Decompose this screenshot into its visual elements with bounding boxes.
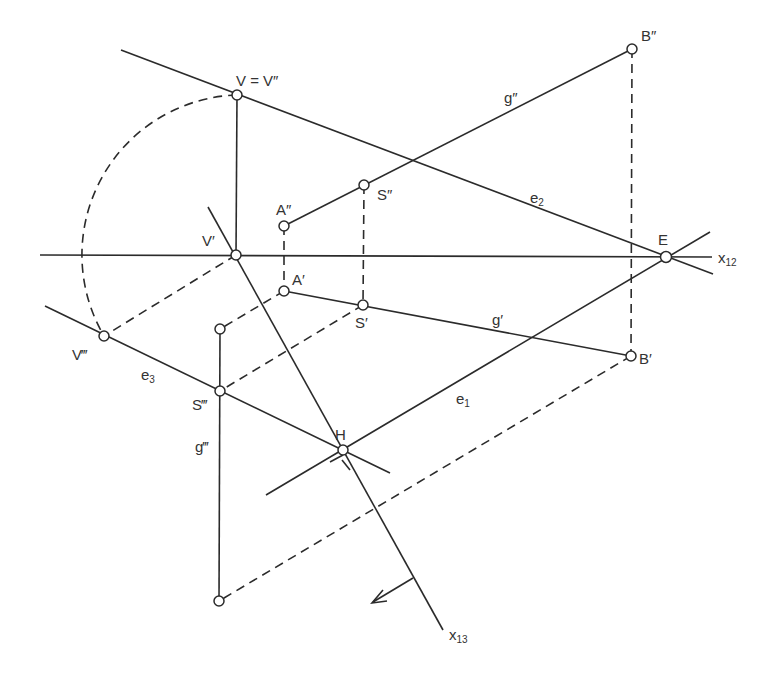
point-v [232, 90, 242, 100]
label-s1: S′ [355, 314, 368, 331]
point-b2 [627, 44, 637, 54]
point-s3 [215, 386, 225, 396]
point-s1 [358, 300, 368, 310]
line-g2 [284, 49, 632, 226]
point-h [338, 445, 348, 455]
label-e3: e3 [141, 366, 155, 385]
label-e1: e1 [456, 390, 470, 409]
point-b1 [626, 351, 636, 361]
line-g3 [219, 329, 220, 601]
dash-b2-b1 [631, 49, 632, 356]
label-v: V = V″ [236, 72, 279, 89]
rotation-arrow-head [372, 590, 387, 603]
dash-b1-b3 [219, 356, 631, 601]
label-a1: A′ [292, 271, 305, 288]
label-e: E [658, 231, 668, 248]
label-g2: g″ [504, 89, 518, 106]
line-g1 [284, 291, 631, 356]
point-e [661, 252, 672, 263]
label-v1: V′ [202, 232, 215, 249]
label-g1: g′ [492, 311, 503, 328]
label-h: H [335, 426, 346, 443]
axis-x12 [40, 255, 712, 257]
label-a2: A″ [276, 201, 292, 218]
rotation-arrow-shaft [373, 578, 413, 602]
point-a3 [215, 324, 225, 334]
diagram-svg: V = V″ V′ V‴ A″ A′ S″ S′ S‴ B″ B′ E H g″… [0, 0, 773, 677]
label-g3: g‴ [195, 438, 209, 455]
point-a2 [279, 221, 289, 231]
label-s2: S″ [377, 186, 393, 203]
point-s2 [359, 180, 369, 190]
point-v3 [99, 331, 109, 341]
dash-s2-s1 [363, 185, 364, 305]
point-v1 [231, 250, 241, 260]
label-s3: S‴ [192, 396, 208, 413]
label-b2: B″ [641, 27, 657, 44]
label-e2: e2 [530, 189, 544, 208]
label-v3: V‴ [72, 346, 88, 363]
label-x13: x13 [449, 626, 468, 645]
label-b1: B′ [639, 350, 652, 367]
dash-v1-v3 [104, 255, 236, 336]
label-x12: x12 [718, 249, 737, 268]
geometry-diagram: V = V″ V′ V‴ A″ A′ S″ S′ S‴ B″ B′ E H g″… [0, 0, 773, 677]
dash-a1-a3 [220, 291, 284, 329]
dash-s1-s3 [220, 305, 363, 391]
point-b3 [214, 596, 224, 606]
point-a1 [279, 286, 289, 296]
arc-rotation [82, 95, 237, 336]
axis-x13 [208, 207, 443, 630]
line-v-v1 [236, 95, 237, 255]
